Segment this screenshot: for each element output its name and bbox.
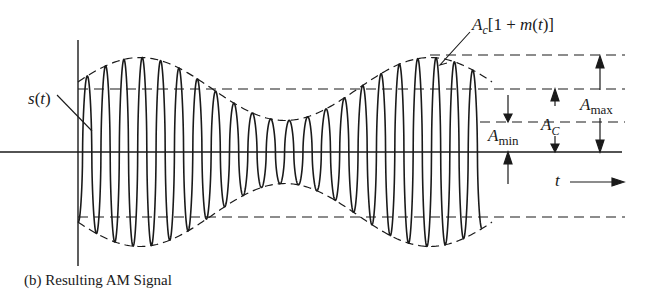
ac-arrowhead-down — [551, 144, 559, 152]
envelope-label: Ac[1 + m(t)] — [471, 15, 554, 37]
amin-label: Amin — [487, 126, 519, 148]
figure-caption: (b) Resulting AM Signal — [24, 272, 172, 289]
envelope-leader-line — [440, 32, 470, 65]
signal-leader-line — [57, 95, 92, 131]
time-arrowhead — [612, 178, 624, 186]
amin-arrowhead-up — [504, 152, 512, 164]
am-signal-diagram: s(t) Ac[1 + m(t)] Amax AC Amin t — [0, 0, 651, 300]
ac-label: AC — [540, 115, 560, 138]
amax-arrowhead-up — [596, 56, 604, 68]
signal-label: s(t) — [28, 89, 51, 108]
amax-arrowhead-down — [596, 140, 604, 152]
amin-arrowhead-down — [504, 114, 512, 122]
amax-label: Amax — [579, 95, 613, 117]
ac-arrowhead-up — [551, 89, 559, 101]
time-label: t — [555, 171, 561, 190]
